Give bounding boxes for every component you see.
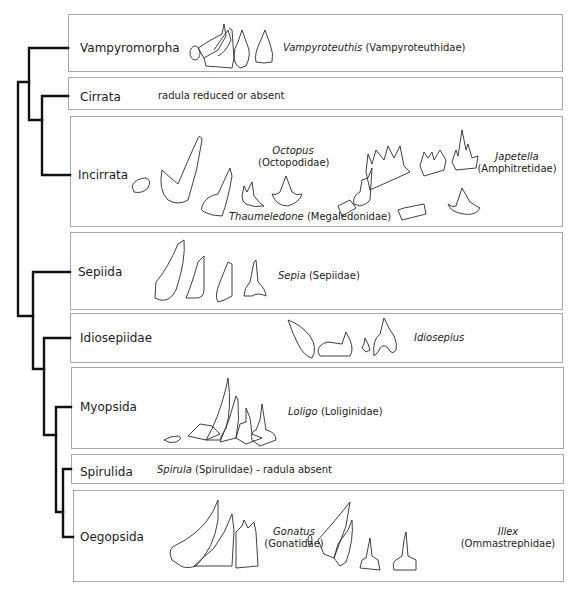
genus-name: Japetella — [476, 151, 558, 163]
taxon-label-illex: Illex (Ommastrephidae) — [458, 526, 558, 550]
taxon-label-idiosepius: Idiosepius — [414, 332, 464, 344]
clade-label-spirulida: Spirulida — [80, 465, 133, 479]
taxon-label-octopus: Octopus (Octopodidae) — [258, 145, 328, 169]
taxon-label-vampyroteuthis: Vampyroteuthis (Vampyroteuthidae) — [283, 42, 466, 54]
family-name: (Ommastrephidae) — [458, 538, 558, 550]
clade-label-cirrata: Cirrata — [80, 90, 121, 104]
genus-name: Spirula — [157, 464, 192, 475]
clade-label-myopsida: Myopsida — [80, 400, 137, 414]
clade-label-incirrata: Incirrata — [78, 168, 128, 182]
family-name: (Octopodidae) — [258, 157, 328, 169]
vampyroteuthis-teeth-icon — [190, 24, 273, 68]
japetella-teeth-icon — [452, 130, 478, 170]
clade-label-oegopsida: Oegopsida — [80, 530, 144, 544]
family-name: (Gonatidae) — [262, 538, 326, 550]
cirrata-note: radula reduced or absent — [158, 90, 284, 102]
taxon-label-gonatus: Gonatus (Gonatidae) — [262, 526, 326, 550]
family-name: (Megaledonidae) — [307, 211, 391, 222]
family-name: (Spirulidae) — [195, 464, 253, 475]
genus-name: Vampyroteuthis — [283, 42, 362, 53]
spirula-note: - radula absent — [256, 464, 332, 475]
taxon-label-sepia: Sepia (Sepiidae) — [278, 270, 360, 282]
taxon-label-thaumeledone: Thaumeledone (Megaledonidae) — [229, 211, 391, 223]
genus-name: Gonatus — [262, 526, 326, 538]
clade-label-vampyromorpha: Vampyromorpha — [80, 41, 180, 55]
phylogeny-figure: Vampyromorpha Cirrata Incirrata Sepiida … — [0, 0, 578, 595]
thaumeledone-teeth-icon — [338, 146, 480, 220]
taxon-label-spirula: Spirula (Spirulidae) - radula absent — [157, 464, 332, 476]
family-name: (Sepiidae) — [309, 270, 360, 281]
sepia-teeth-icon — [155, 240, 266, 302]
genus-name: Sepia — [278, 270, 306, 281]
genus-name: Illex — [458, 526, 558, 538]
genus-name: Thaumeledone — [229, 211, 304, 222]
taxon-label-japetella: Japetella (Amphitretidae) — [476, 151, 558, 175]
family-name: (Vampyroteuthidae) — [365, 42, 465, 53]
gonatus-teeth-icon — [170, 500, 258, 568]
family-name: (Amphitretidae) — [476, 163, 558, 175]
genus-name: Octopus — [258, 145, 328, 157]
idiosepius-teeth-icon — [288, 318, 396, 358]
genus-name: Loligo — [288, 406, 318, 417]
clade-label-idiosepiidae: Idiosepiidae — [80, 331, 152, 345]
clade-label-sepiida: Sepiida — [78, 265, 122, 279]
taxon-label-loligo: Loligo (Loliginidae) — [288, 406, 383, 418]
family-name: (Loliginidae) — [321, 406, 383, 417]
loligo-teeth-icon — [164, 378, 276, 446]
